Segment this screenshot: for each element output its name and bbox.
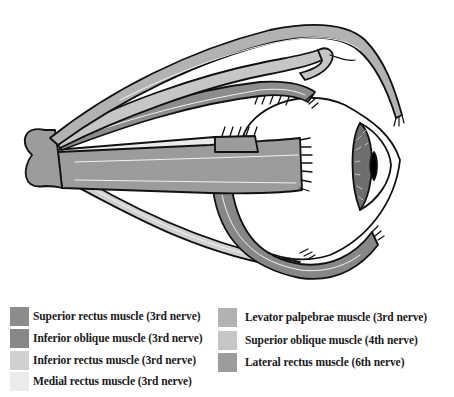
legend-swatch [10,307,29,326]
legend-item-medial-rectus: Medial rectus muscle (3rd nerve) [10,371,192,391]
legend-label: Superior rectus muscle (3rd nerve) [33,310,200,322]
legend-label: Inferior oblique muscle (3rd nerve) [33,332,202,344]
legend-label: Inferior rectus muscle (3rd nerve) [33,354,196,366]
legend-label: Medial rectus muscle (3rd nerve) [33,375,192,387]
legend-item-superior-oblique: Superior oblique muscle (4th nerve) [218,330,418,350]
legend-swatch [10,351,29,370]
legend-swatch [10,372,29,391]
legend-item-levator-palpebrae: Levator palpebrae muscle (3rd nerve) [218,307,427,327]
legend-swatch [218,331,237,350]
legend-item-inferior-oblique: Inferior oblique muscle (3rd nerve) [10,328,202,348]
legend-item-lateral-rectus: Lateral rectus muscle (6th nerve) [218,352,404,372]
legend-label: Levator palpebrae muscle (3rd nerve) [245,311,427,323]
legend-label: Lateral rectus muscle (6th nerve) [245,356,404,368]
legend: Superior rectus muscle (3rd nerve) Infer… [0,300,454,397]
pupil [370,152,377,180]
extraocular-muscles-diagram [0,0,454,300]
legend-swatch [218,353,237,372]
legend-label: Superior oblique muscle (4th nerve) [245,334,418,346]
legend-swatch [10,329,29,348]
legend-item-inferior-rectus: Inferior rectus muscle (3rd nerve) [10,350,196,370]
legend-item-superior-rectus: Superior rectus muscle (3rd nerve) [10,306,200,326]
legend-swatch [218,308,237,327]
